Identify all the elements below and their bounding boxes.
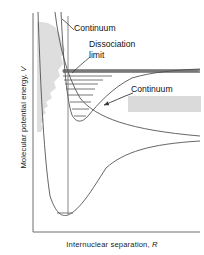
y-axis-label-text: Molecular potential energy, bbox=[19, 72, 28, 169]
annotation-dissociation-limit-line1: Dissociation bbox=[89, 39, 135, 50]
x-axis-label-variable: R bbox=[152, 240, 158, 249]
annotation-continuum-right: Continuum bbox=[131, 84, 173, 95]
y-axis-label: Molecular potential energy, V bbox=[19, 43, 28, 193]
annotation-dissociation-limit: Dissociation limit bbox=[89, 39, 135, 60]
molecular-potential-energy-figure: Molecular potential energy, V Internucle… bbox=[0, 0, 204, 255]
annotation-continuum-upper: Continuum bbox=[74, 23, 116, 34]
x-axis-label: Internuclear separation, R bbox=[24, 240, 200, 249]
left-continuum-shade bbox=[37, 22, 65, 132]
annotation-dissociation-limit-line2: limit bbox=[89, 50, 135, 61]
x-axis-label-text: Internuclear separation, bbox=[66, 240, 152, 249]
y-axis-label-variable: V bbox=[19, 66, 28, 71]
right-continuum-band bbox=[128, 96, 202, 112]
